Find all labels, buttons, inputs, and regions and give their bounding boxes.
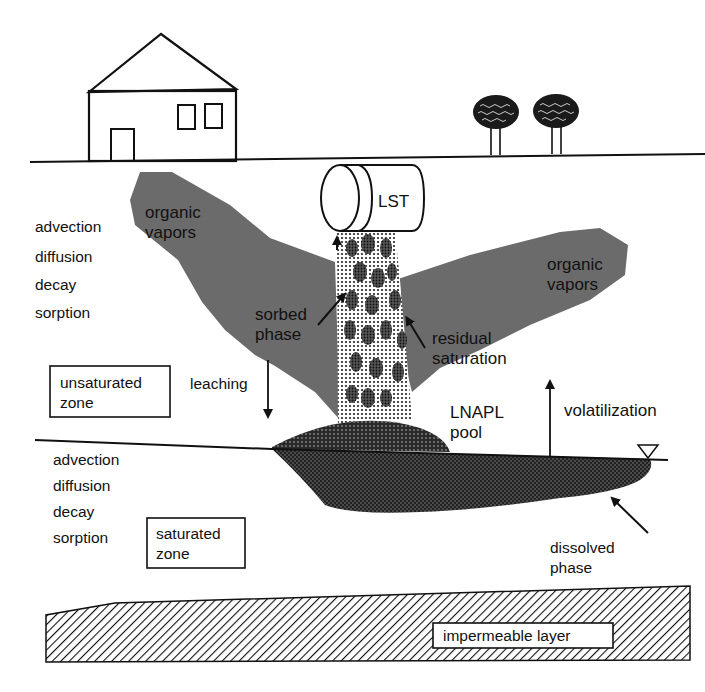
water-table-symbol: [638, 445, 658, 458]
house-icon: [89, 34, 236, 161]
saturated-zone-label: zone: [156, 545, 190, 562]
svg-text:pool: pool: [450, 423, 482, 442]
diagram-canvas: LST impermeable layer advection diffusio…: [0, 0, 705, 692]
organic-vapors-label-left: organic vapors: [145, 203, 201, 242]
lnapl-pool: [272, 421, 450, 452]
svg-text:organic: organic: [547, 255, 603, 274]
volatilization-label: volatilization: [564, 401, 657, 420]
svg-text:dissolved: dissolved: [550, 539, 615, 556]
dissolved-phase-arrow: [614, 500, 648, 533]
svg-text:sorption: sorption: [35, 304, 90, 321]
svg-text:diffusion: diffusion: [35, 248, 92, 265]
organic-vapor-plume-right: [395, 228, 628, 392]
impermeable-layer-label: impermeable layer: [443, 627, 571, 644]
svg-text:phase: phase: [550, 559, 592, 576]
svg-text:LNAPL: LNAPL: [450, 403, 504, 422]
unsaturated-zone-label: unsaturated: [60, 374, 142, 391]
svg-text:organic: organic: [145, 203, 201, 222]
svg-text:residual: residual: [432, 329, 492, 348]
svg-text:decay: decay: [53, 503, 95, 520]
saturated-zone-label: saturated: [156, 525, 221, 542]
leaching-label: leaching: [190, 375, 248, 392]
tree-icon: [533, 94, 579, 154]
unsaturated-processes-list: advection diffusion decay sorption: [35, 218, 101, 321]
svg-text:advection: advection: [53, 451, 119, 468]
svg-text:sorption: sorption: [53, 529, 108, 546]
svg-text:saturation: saturation: [432, 349, 507, 368]
svg-text:vapors: vapors: [547, 275, 598, 294]
svg-text:decay: decay: [35, 276, 77, 293]
svg-text:diffusion: diffusion: [53, 477, 110, 494]
unsaturated-zone-label: zone: [60, 394, 94, 411]
saturated-processes-list: advection diffusion decay sorption: [53, 451, 119, 546]
sorbed-phase-label: sorbed phase: [255, 305, 307, 344]
dissolved-phase-label: dissolved phase: [550, 539, 615, 576]
svg-text:phase: phase: [255, 325, 301, 344]
svg-text:sorbed: sorbed: [255, 305, 307, 324]
organic-vapors-label-right: organic vapors: [547, 255, 603, 294]
svg-text:vapors: vapors: [145, 223, 196, 242]
tank-label: LST: [378, 192, 409, 211]
svg-text:advection: advection: [35, 218, 101, 235]
tree-icon: [473, 95, 519, 155]
lnapl-pool-label: LNAPL pool: [450, 403, 504, 442]
